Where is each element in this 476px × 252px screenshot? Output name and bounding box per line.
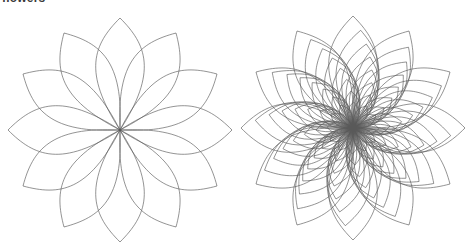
flowers-illustration xyxy=(0,0,476,252)
figure-canvas: flowers xyxy=(0,0,476,252)
page-caption: flowers xyxy=(2,0,45,5)
left-flower xyxy=(8,18,232,242)
right-flower xyxy=(241,16,465,240)
left-flower-layer-0 xyxy=(8,18,232,242)
